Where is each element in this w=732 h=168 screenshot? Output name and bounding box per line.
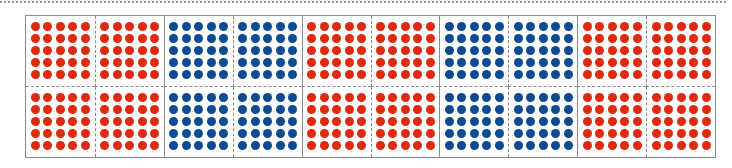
blue-dot-icon xyxy=(207,70,216,79)
blue-dot-icon xyxy=(539,34,548,43)
red-dot-icon xyxy=(56,22,65,31)
red-dot-icon xyxy=(633,34,642,43)
blue-dot-icon xyxy=(514,34,523,43)
red-dot-icon xyxy=(43,141,52,150)
blue-dot-icon xyxy=(514,105,523,114)
dot-square-red xyxy=(646,87,715,158)
red-dot-icon xyxy=(702,34,711,43)
blue-dot-icon xyxy=(238,58,247,67)
blue-dot-icon xyxy=(182,58,191,67)
red-dot-icon xyxy=(31,141,40,150)
red-dot-icon xyxy=(307,70,316,79)
blue-dot-icon xyxy=(564,141,573,150)
red-dot-icon xyxy=(56,70,65,79)
red-dot-icon xyxy=(345,46,354,55)
blue-dot-icon xyxy=(207,58,216,67)
blue-dot-icon xyxy=(526,93,535,102)
red-dot-icon xyxy=(332,70,341,79)
dot-square-blue xyxy=(233,16,302,87)
blue-dot-icon xyxy=(263,105,272,114)
blue-dot-icon xyxy=(551,70,560,79)
red-dot-icon xyxy=(320,58,329,67)
red-dot-icon xyxy=(401,141,410,150)
blue-dot-icon xyxy=(564,70,573,79)
blue-dot-icon xyxy=(182,129,191,138)
red-dot-icon xyxy=(138,93,147,102)
dot-square-red xyxy=(302,87,371,158)
red-dot-icon xyxy=(689,93,698,102)
red-dot-icon xyxy=(150,46,159,55)
red-dot-icon xyxy=(100,129,109,138)
blue-dot-icon xyxy=(470,117,479,126)
red-dot-icon xyxy=(689,22,698,31)
blue-dot-icon xyxy=(276,46,285,55)
red-dot-icon xyxy=(357,34,366,43)
blue-dot-icon xyxy=(445,22,454,31)
red-dot-icon xyxy=(413,129,422,138)
red-dot-icon xyxy=(426,129,435,138)
blue-dot-icon xyxy=(514,22,523,31)
red-dot-icon xyxy=(689,70,698,79)
blue-dot-icon xyxy=(445,34,454,43)
red-dot-icon xyxy=(68,22,77,31)
red-dot-icon xyxy=(388,129,397,138)
blue-dot-icon xyxy=(526,70,535,79)
red-dot-icon xyxy=(633,46,642,55)
red-dot-icon xyxy=(664,22,673,31)
blue-dot-icon xyxy=(238,141,247,150)
blue-dot-icon xyxy=(276,58,285,67)
red-dot-icon xyxy=(652,58,661,67)
red-dot-icon xyxy=(320,46,329,55)
blue-dot-icon xyxy=(457,105,466,114)
red-dot-icon xyxy=(113,117,122,126)
red-dot-icon xyxy=(56,58,65,67)
blue-dot-icon xyxy=(169,93,178,102)
red-dot-icon xyxy=(608,70,617,79)
red-dot-icon xyxy=(100,141,109,150)
blue-dot-icon xyxy=(564,93,573,102)
red-dot-icon xyxy=(113,93,122,102)
red-dot-icon xyxy=(376,93,385,102)
red-dot-icon xyxy=(332,46,341,55)
dot-array xyxy=(100,22,159,79)
blue-dot-icon xyxy=(495,58,504,67)
blue-dot-icon xyxy=(482,22,491,31)
red-dot-icon xyxy=(583,117,592,126)
ten-frame-dot-grid xyxy=(25,15,716,158)
blue-dot-icon xyxy=(514,93,523,102)
red-dot-icon xyxy=(413,93,422,102)
blue-dot-icon xyxy=(238,34,247,43)
red-dot-icon xyxy=(125,105,134,114)
red-dot-icon xyxy=(595,141,604,150)
red-dot-icon xyxy=(31,117,40,126)
blue-dot-icon xyxy=(564,34,573,43)
red-dot-icon xyxy=(31,93,40,102)
red-dot-icon xyxy=(125,46,134,55)
blue-dot-icon xyxy=(551,22,560,31)
dot-square-blue xyxy=(439,16,508,87)
red-dot-icon xyxy=(43,129,52,138)
red-dot-icon xyxy=(595,58,604,67)
blue-dot-icon xyxy=(251,129,260,138)
red-dot-icon xyxy=(68,141,77,150)
red-dot-icon xyxy=(138,105,147,114)
red-dot-icon xyxy=(307,46,316,55)
red-dot-icon xyxy=(664,117,673,126)
red-dot-icon xyxy=(677,117,686,126)
red-dot-icon xyxy=(677,22,686,31)
red-dot-icon xyxy=(357,117,366,126)
dot-array xyxy=(652,22,711,79)
red-dot-icon xyxy=(620,105,629,114)
blue-dot-icon xyxy=(263,93,272,102)
red-dot-icon xyxy=(689,34,698,43)
red-dot-icon xyxy=(583,141,592,150)
blue-dot-icon xyxy=(182,34,191,43)
red-dot-icon xyxy=(150,117,159,126)
blue-dot-icon xyxy=(182,117,191,126)
red-dot-icon xyxy=(320,70,329,79)
blue-dot-icon xyxy=(238,117,247,126)
dot-array xyxy=(31,22,90,79)
blue-dot-icon xyxy=(539,22,548,31)
red-dot-icon xyxy=(56,129,65,138)
blue-dot-icon xyxy=(169,117,178,126)
